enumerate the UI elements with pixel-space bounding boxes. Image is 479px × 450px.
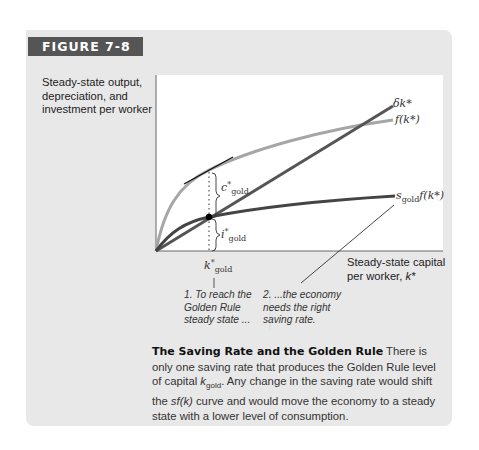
golden-rule-point — [206, 214, 212, 220]
k-gold-label: k*gold — [204, 258, 232, 274]
i-gold-label: i*gold — [221, 227, 246, 243]
delta-k-line — [156, 106, 393, 251]
f-k-curve — [156, 120, 393, 251]
x-axis-label: Steady-state capital per worker, k* — [347, 256, 457, 283]
delta-k-label: δk* — [393, 97, 412, 110]
s-gold-f-k-label: sgoldf(k*) — [396, 189, 444, 204]
s-gold-f-k-curve — [156, 196, 395, 251]
f-k-label: f(k*) — [395, 113, 420, 126]
note-golden-rule: 1. To reach the Golden Rule steady state… — [184, 289, 268, 327]
caption-title: The Saving Rate and the Golden Rule — [152, 345, 383, 358]
c-gold-label: c*gold — [221, 180, 249, 196]
note-saving-rate: 2. ...the economy needs the right saving… — [263, 289, 343, 327]
i-gold-brace — [212, 219, 220, 251]
figure-caption: The Saving Rate and the Golden Rule Ther… — [152, 344, 444, 423]
